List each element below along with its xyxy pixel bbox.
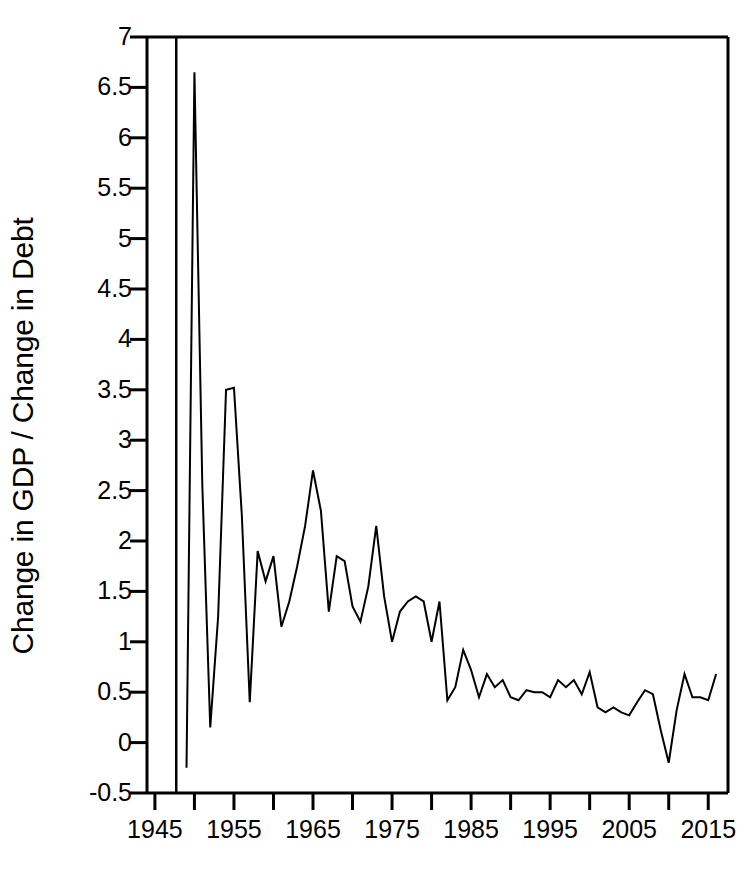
plot-area <box>0 0 745 872</box>
chart-figure: Change in GDP / Change in Debt 76.565.55… <box>0 0 745 872</box>
data-series-group <box>187 72 717 768</box>
tick-marks-group <box>130 37 708 810</box>
data-line <box>187 72 717 768</box>
axes-group <box>147 37 728 793</box>
